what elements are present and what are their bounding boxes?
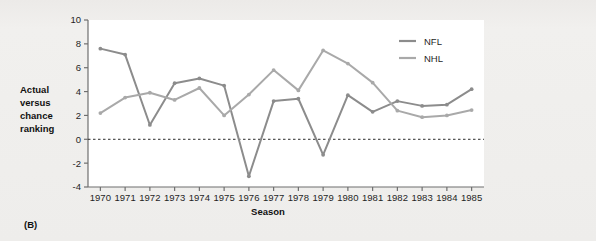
x-tick-label-1976: 1976 [238,192,259,203]
data-point [321,49,325,53]
data-point [445,114,449,118]
data-point [148,91,152,95]
y-axis-tick-labels: 1086420-2-4 [70,14,81,192]
x-axis-title: Season [251,206,285,217]
y-axis-title-line-4: ranking [20,123,55,134]
data-point [222,84,226,88]
x-tick-label-1975: 1975 [214,192,235,203]
data-point [470,87,474,91]
data-point [371,110,375,114]
data-point [272,99,276,103]
data-point [173,81,177,85]
x-tick-label-1985: 1985 [461,192,482,203]
legend-label-nfl: NFL [424,36,442,47]
data-point [420,115,424,119]
y-axis-title-line-3: chance [20,110,53,121]
x-tick-label-1979: 1979 [313,192,334,203]
y-tick-label--4: -4 [73,181,81,192]
x-tick-label-1970: 1970 [90,192,111,203]
x-tick-label-1974: 1974 [189,192,210,203]
data-point [98,47,102,51]
x-axis-tick-labels: 1970197119721973197419751976197719781979… [90,192,482,203]
data-point [395,109,399,113]
data-point [470,108,474,112]
x-tick-label-1972: 1972 [139,192,160,203]
y-tick-label-10: 10 [70,14,81,25]
data-point [197,77,201,81]
data-point [346,62,350,66]
data-point [420,104,424,108]
y-tick-label--2: -2 [73,158,81,169]
y-tick-label-8: 8 [76,38,81,49]
line-chart: 1086420-2-4 1970197119721973197419751976… [0,0,596,241]
data-point [272,68,276,72]
data-point [148,123,152,127]
data-point [445,103,449,107]
data-point [173,98,177,102]
y-axis-title-line-1: Actual [20,84,49,95]
x-axis-ticks [100,187,471,191]
x-tick-label-1980: 1980 [337,192,358,203]
y-tick-label-4: 4 [76,86,81,97]
x-tick-label-1978: 1978 [288,192,309,203]
panel-label: (B) [24,219,37,230]
legend-label-nhl: NHL [424,53,443,64]
data-point [197,86,201,90]
data-point [247,93,251,97]
y-axis-title-line-2: versus [20,97,51,108]
y-tick-label-2: 2 [76,110,81,121]
data-point [296,97,300,101]
y-axis-title: Actual versus chance ranking [20,84,55,134]
x-tick-label-1981: 1981 [362,192,383,203]
data-point [247,174,251,178]
data-point [346,93,350,97]
data-point [321,153,325,157]
x-tick-label-1984: 1984 [436,192,457,203]
data-point [371,81,375,85]
y-tick-label-0: 0 [76,134,81,145]
x-tick-label-1973: 1973 [164,192,185,203]
data-point [395,99,399,103]
data-point [296,88,300,92]
x-tick-label-1982: 1982 [387,192,408,203]
data-point [123,96,127,100]
x-tick-label-1971: 1971 [115,192,136,203]
figure-panel-b: 1086420-2-4 1970197119721973197419751976… [0,0,596,241]
x-tick-label-1977: 1977 [263,192,284,203]
x-tick-label-1983: 1983 [412,192,433,203]
data-point [98,111,102,115]
data-point [222,114,226,118]
y-tick-label-6: 6 [76,62,81,73]
data-point [123,53,127,57]
